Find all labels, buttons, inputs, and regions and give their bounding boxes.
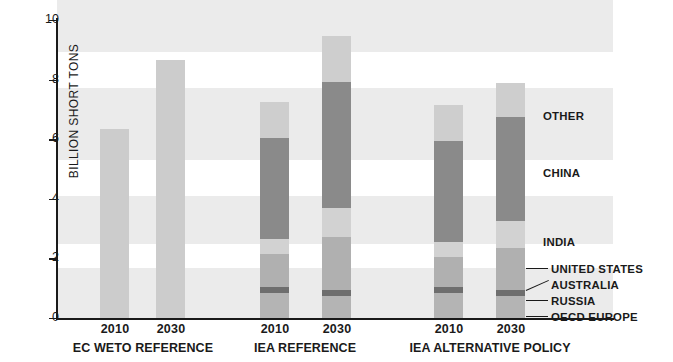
bar-segment-china xyxy=(434,141,463,242)
bar-segment-other xyxy=(260,102,289,138)
bar-segment-india xyxy=(434,242,463,257)
y-tick-label: 10 xyxy=(29,13,59,25)
bar-segment-china xyxy=(260,138,289,239)
bar-segment-total xyxy=(156,60,185,318)
bar-segment-united-states xyxy=(434,257,463,287)
x-label-group-iea-ref: IEA REFERENCE xyxy=(215,341,395,355)
bar-segment-russia xyxy=(260,287,289,293)
legend-label-australia: AUSTRALIA xyxy=(551,279,619,291)
bar-segment-united-states xyxy=(260,254,289,287)
legend-label-russia: RUSSIA xyxy=(551,295,596,307)
y-axis-title: BILLION SHORT TONS xyxy=(67,31,81,191)
bar-iea-alternative-policy-2010 xyxy=(434,105,463,318)
x-label-year: 2030 xyxy=(307,322,367,336)
bar-segment-india xyxy=(322,208,351,238)
x-label-year: 2010 xyxy=(85,322,145,336)
bar-segment-india xyxy=(260,239,289,254)
bar-segment-other xyxy=(496,83,525,117)
bar-segment-china xyxy=(322,82,351,207)
legend-label-china: CHINA xyxy=(543,167,580,179)
y-tick-label: 8 xyxy=(29,73,59,85)
x-label-year: 2030 xyxy=(141,322,201,336)
x-axis-line xyxy=(56,318,614,320)
bar-segment-india xyxy=(496,221,525,248)
bar-segment-oecd-europe xyxy=(434,293,463,318)
bar-segment-china xyxy=(496,117,525,221)
bar-segment-united-states xyxy=(322,237,351,289)
bar-segment-other xyxy=(322,36,351,83)
y-tick-label: 4 xyxy=(29,192,59,204)
bar-segment-other xyxy=(434,105,463,141)
bar-iea-reference-2030 xyxy=(322,30,351,318)
bar-segment-oecd-europe xyxy=(322,296,351,318)
y-tick-label: 6 xyxy=(29,132,59,144)
bar-ec-weto-2030 xyxy=(156,60,185,318)
legend-label-other: OTHER xyxy=(543,110,584,122)
x-label-group-ec-weto: EC WETO REFERENCE xyxy=(53,341,233,355)
x-label-year: 2010 xyxy=(419,322,479,336)
x-label-year: 2010 xyxy=(245,322,305,336)
bar-segment-russia xyxy=(496,290,525,296)
legend-label-oecd-europe: OECD EUROPE xyxy=(551,311,638,323)
bar-segment-russia xyxy=(434,287,463,293)
x-label-group-iea-alt: IEA ALTERNATIVE POLICY xyxy=(390,341,590,355)
bar-segment-oecd-europe xyxy=(496,296,525,318)
x-label-year: 2030 xyxy=(481,322,541,336)
bar-segment-united-states xyxy=(496,248,525,290)
bar-segment-oecd-europe xyxy=(260,293,289,318)
bar-segment-russia xyxy=(322,290,351,296)
chart-root: 10 8 6 4 2 0 BILLION SHORT TONS xyxy=(0,0,673,362)
bar-iea-alternative-policy-2030 xyxy=(496,89,525,319)
legend-leader-united-states xyxy=(526,268,548,269)
y-axis-line xyxy=(56,18,58,320)
legend-leader-russia xyxy=(526,300,548,301)
bar-segment-total xyxy=(100,129,129,318)
legend-label-india: INDIA xyxy=(543,236,575,248)
y-tick-label: 0 xyxy=(29,311,59,323)
bar-ec-weto-2010 xyxy=(100,129,129,318)
bar-iea-reference-2010 xyxy=(260,102,289,318)
legend-leader-oecd-europe xyxy=(526,316,548,317)
y-tick-label: 2 xyxy=(29,251,59,263)
legend-label-united-states: UNITED STATES xyxy=(551,263,643,275)
